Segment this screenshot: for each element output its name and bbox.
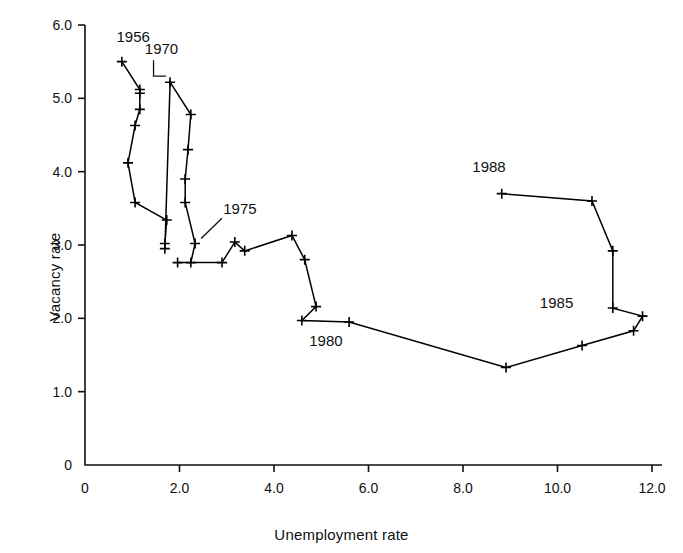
data-point-marker xyxy=(130,197,140,207)
x-tick-label: 6.0 xyxy=(359,480,379,496)
data-point-marker xyxy=(638,311,648,321)
leader-line xyxy=(201,218,222,238)
data-point-marker xyxy=(287,230,297,240)
chart-figure: Vacancy rate Unemployment rate 01.02.03.… xyxy=(0,0,683,553)
data-point-marker xyxy=(160,244,170,254)
data-point-marker xyxy=(497,189,507,199)
data-point-marker xyxy=(162,215,172,225)
leader-line xyxy=(154,60,167,76)
data-point-marker xyxy=(577,340,587,350)
year-label: 1970 xyxy=(145,40,178,57)
data-point-marker xyxy=(608,303,618,313)
data-point-marker xyxy=(135,104,145,114)
y-tick-label: 1.0 xyxy=(53,384,73,400)
data-point-marker xyxy=(501,362,511,372)
data-point-marker xyxy=(123,158,133,168)
data-point-marker xyxy=(117,57,127,67)
data-point-marker xyxy=(344,317,354,327)
data-point-marker xyxy=(173,258,183,268)
y-tick-label: 4.0 xyxy=(53,164,73,180)
x-tick-label: 2.0 xyxy=(170,480,190,496)
data-point-marker xyxy=(180,174,190,184)
data-point-marker xyxy=(300,255,310,265)
x-tick-label: 8.0 xyxy=(453,480,473,496)
x-tick-label: 0 xyxy=(81,480,89,496)
data-point-marker xyxy=(217,258,227,268)
data-point-marker xyxy=(183,145,193,155)
x-tick-label: 12.0 xyxy=(638,480,665,496)
data-series-line xyxy=(122,62,643,368)
year-label: 1985 xyxy=(540,294,573,311)
data-point-marker xyxy=(629,326,639,336)
y-tick-label: 2.0 xyxy=(53,310,73,326)
beveridge-curve-plot: 01.02.03.04.05.06.002.04.06.08.010.012.0… xyxy=(0,0,683,553)
year-label: 1975 xyxy=(223,200,256,217)
series-polyline xyxy=(122,62,643,368)
data-point-marker xyxy=(130,120,140,130)
y-tick-label: 6.0 xyxy=(53,17,73,33)
x-tick-label: 4.0 xyxy=(264,480,284,496)
x-tick-label: 10.0 xyxy=(544,480,571,496)
y-tick-label: 5.0 xyxy=(53,90,73,106)
data-point-marker xyxy=(608,246,618,256)
data-point-markers xyxy=(117,57,648,373)
year-label: 1988 xyxy=(472,158,505,175)
data-point-marker xyxy=(186,109,196,119)
data-point-marker xyxy=(186,258,196,268)
data-point-marker xyxy=(180,197,190,207)
year-label: 1980 xyxy=(309,332,342,349)
y-tick-label: 3.0 xyxy=(53,237,73,253)
data-point-marker xyxy=(165,77,175,87)
data-point-marker xyxy=(587,196,597,206)
y-tick-label: 0 xyxy=(64,457,72,473)
data-point-marker xyxy=(190,239,200,249)
axis-lines xyxy=(85,25,662,465)
